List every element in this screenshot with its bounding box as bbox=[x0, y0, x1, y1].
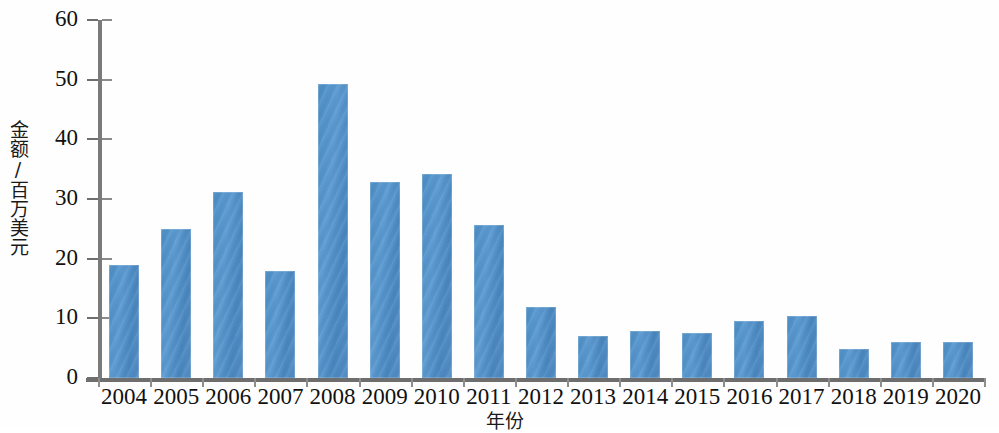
bar-slot bbox=[723, 20, 775, 378]
y-axis-tick: 40 bbox=[87, 138, 98, 140]
x-axis-line bbox=[86, 378, 984, 382]
bar bbox=[630, 331, 660, 378]
bar bbox=[474, 225, 504, 378]
bar bbox=[839, 349, 869, 378]
bar bbox=[370, 182, 400, 378]
bar bbox=[891, 342, 921, 378]
bar bbox=[578, 336, 608, 378]
bar bbox=[734, 321, 764, 378]
y-axis-tick-label: 10 bbox=[34, 304, 78, 330]
bar-slot bbox=[932, 20, 984, 378]
bar bbox=[318, 84, 348, 378]
y-axis-tick-label: 0 bbox=[34, 364, 78, 390]
bar bbox=[213, 192, 243, 378]
bar-slot bbox=[202, 20, 254, 378]
bar-slot bbox=[150, 20, 202, 378]
bar bbox=[943, 342, 973, 378]
bar-slot bbox=[880, 20, 932, 378]
y-axis-tick: 50 bbox=[87, 79, 98, 81]
bar bbox=[422, 174, 452, 378]
bar-slot bbox=[254, 20, 306, 378]
bar bbox=[526, 307, 556, 378]
bar bbox=[109, 265, 139, 378]
bar-slot bbox=[776, 20, 828, 378]
y-axis-tick: 20 bbox=[87, 258, 98, 260]
bar bbox=[787, 316, 817, 378]
y-axis-title: 金额/百万美元 bbox=[2, 120, 28, 256]
bar-slot bbox=[463, 20, 515, 378]
y-axis-tick-label: 40 bbox=[34, 125, 78, 151]
y-axis-tick-label: 50 bbox=[34, 66, 78, 92]
bar-slot bbox=[411, 20, 463, 378]
y-axis-tick-label: 60 bbox=[34, 6, 78, 32]
y-axis-tick: 10 bbox=[87, 317, 98, 319]
bar-slot bbox=[567, 20, 619, 378]
bar-slot bbox=[515, 20, 567, 378]
plot-area: 0102030405060 bbox=[98, 20, 984, 378]
bar bbox=[265, 271, 295, 378]
bar bbox=[682, 333, 712, 378]
bar-slot bbox=[828, 20, 880, 378]
y-axis-tick: 60 bbox=[87, 19, 98, 21]
bar-slot bbox=[359, 20, 411, 378]
x-axis-title: 年份 bbox=[10, 406, 999, 433]
bar-slot bbox=[306, 20, 358, 378]
bar-series bbox=[98, 20, 984, 378]
y-axis-tick: 0 bbox=[87, 377, 98, 379]
bar-slot bbox=[671, 20, 723, 378]
y-axis-tick: 30 bbox=[87, 198, 98, 200]
bar bbox=[161, 229, 191, 378]
x-axis-tick bbox=[984, 378, 986, 387]
y-axis-tick-label: 30 bbox=[34, 185, 78, 211]
bar-slot bbox=[619, 20, 671, 378]
y-axis-tick-label: 20 bbox=[34, 245, 78, 271]
bar-slot bbox=[98, 20, 150, 378]
